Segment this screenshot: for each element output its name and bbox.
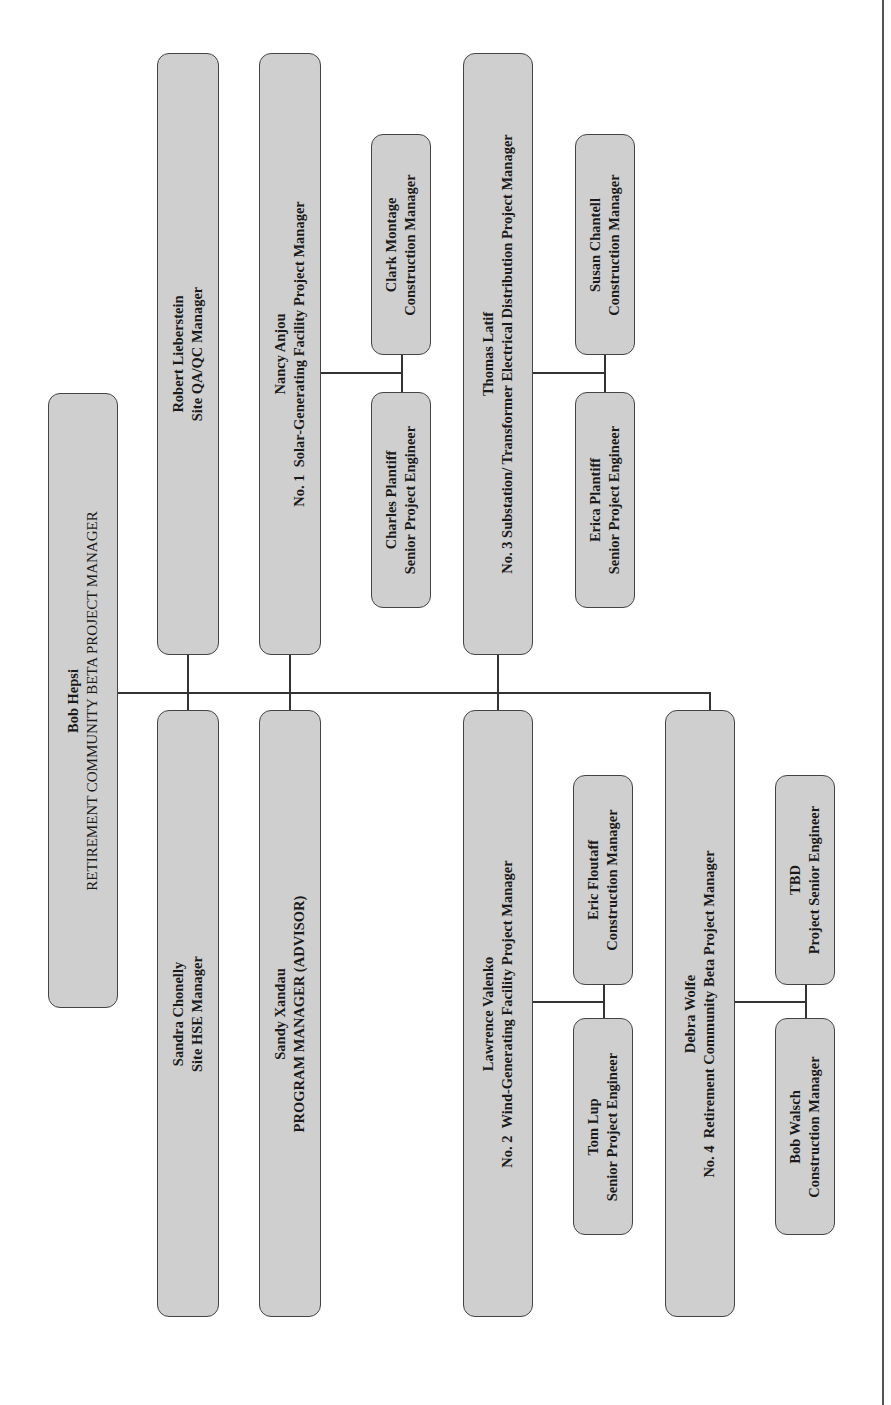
org-box-nancy-anjou: Nancy Anjou No. 1 Solar-Generating Facil… [259, 53, 321, 655]
connector-main-trunk [118, 692, 711, 694]
connector-lawrence-reports-v [603, 985, 605, 1018]
connector-robert-sandra [187, 655, 189, 710]
person-name: Sandy Xandau [271, 895, 290, 1132]
org-box-debra-wolfe: Debra Wolfe No. 4 Retirement Community B… [665, 710, 735, 1317]
person-name: Charles Plantiff [382, 426, 401, 574]
person-title: No. 2 Wind-Generating Facility Project M… [498, 860, 517, 1167]
connector-thomas-reports-v [604, 355, 606, 392]
org-box-erica-plantiff: Erica Plantiff Senior Project Engineer [575, 392, 635, 608]
person-title: PROGRAM MANAGER (ADVISOR) [290, 895, 309, 1132]
person-name: Erica Plantiff [586, 426, 605, 574]
person-title: No. 4 Retirement Community Beta Project … [700, 850, 719, 1177]
org-box-tbd: TBD Project Senior Engineer [775, 775, 835, 985]
person-name: Eric Floutaff [584, 809, 603, 950]
person-name: Tom Lup [584, 1052, 603, 1200]
person-title: Construction Manager [805, 1056, 824, 1197]
org-box-lawrence-valenko: Lawrence Valenko No. 2 Wind-Generating F… [463, 710, 533, 1317]
connector-debra-reports-v [805, 985, 807, 1018]
person-name: Nancy Anjou [271, 201, 290, 507]
person-title: Site QA/QC Manager [188, 287, 207, 422]
connector-thomas-lawrence [497, 655, 499, 710]
root-name: Bob Hepsi [64, 511, 83, 890]
org-box-susan-chantell: Susan Chantell Construction Manager [575, 134, 635, 355]
person-name: Robert Lieberstein [169, 287, 188, 422]
connector-lawrence-reports-h [533, 1001, 604, 1003]
connector-thomas-reports-h [533, 372, 605, 374]
root-title: RETIREMENT COMMUNITY BETA PROJECT MANAGE… [83, 511, 102, 890]
person-title: Senior Project Engineer [401, 426, 420, 574]
connector-nancy-reports-v [401, 355, 403, 392]
person-name: Thomas Latif [479, 134, 498, 574]
org-box-eric-floutaff: Eric Floutaff Construction Manager [573, 775, 633, 985]
person-name: Lawrence Valenko [479, 860, 498, 1167]
org-box-robert-lieberstein: Robert Lieberstein Site QA/QC Manager [157, 53, 219, 655]
person-name: Bob Walsch [786, 1056, 805, 1197]
org-box-tom-lup: Tom Lup Senior Project Engineer [573, 1018, 633, 1235]
org-box-root: Bob Hepsi RETIREMENT COMMUNITY BETA PROJ… [48, 393, 118, 1008]
person-title: Construction Manager [605, 174, 624, 315]
connector-nancy-sandy [289, 655, 291, 710]
person-title: No. 1 Solar-Generating Facility Project … [290, 201, 309, 507]
org-box-sandy-xandau: Sandy Xandau PROGRAM MANAGER (ADVISOR) [259, 710, 321, 1317]
person-title: No. 3 Substation/ Transformer Electrical… [498, 134, 517, 574]
connector-debra-reports-h [735, 1001, 806, 1003]
person-title: Senior Project Engineer [603, 1052, 622, 1200]
org-box-charles-plantiff: Charles Plantiff Senior Project Engineer [371, 392, 431, 608]
person-name: Clark Montage [382, 174, 401, 315]
person-title: Construction Manager [603, 809, 622, 950]
person-title: Construction Manager [401, 174, 420, 315]
org-box-bob-walsch: Bob Walsch Construction Manager [775, 1018, 835, 1235]
connector-nancy-reports-h [321, 372, 402, 374]
person-title: Site HSE Manager [188, 956, 207, 1072]
person-title: Project Senior Engineer [805, 806, 824, 954]
person-name: Debra Wolfe [681, 850, 700, 1177]
person-name: Sandra Chonelly [169, 956, 188, 1072]
org-box-clark-montage: Clark Montage Construction Manager [371, 134, 431, 355]
org-box-sandra-chonelly: Sandra Chonelly Site HSE Manager [157, 710, 219, 1317]
person-name: Susan Chantell [586, 174, 605, 315]
page-border [882, 0, 884, 1405]
person-name: TBD [786, 806, 805, 954]
org-box-thomas-latif: Thomas Latif No. 3 Substation/ Transform… [463, 53, 533, 655]
connector-debra [709, 692, 711, 710]
person-title: Senior Project Engineer [605, 426, 624, 574]
